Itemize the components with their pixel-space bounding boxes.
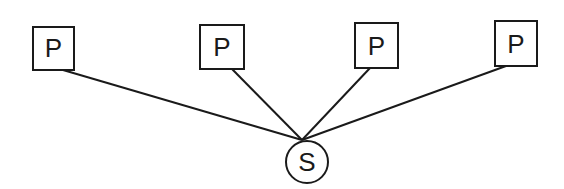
process-label: P xyxy=(213,32,230,62)
process-label: P xyxy=(368,31,385,61)
edges xyxy=(63,66,506,140)
server-node: S xyxy=(286,141,328,183)
edge-p3-s xyxy=(302,68,370,140)
process-node-2: P xyxy=(200,25,244,69)
edge-p4-s xyxy=(302,66,506,140)
process-label: P xyxy=(507,29,524,59)
process-label: P xyxy=(45,33,62,63)
process-node-1: P xyxy=(33,27,74,70)
server-label: S xyxy=(298,147,315,177)
process-node-3: P xyxy=(355,23,398,68)
process-node-4: P xyxy=(495,21,537,66)
star-topology-diagram: P P P P S xyxy=(0,0,564,189)
